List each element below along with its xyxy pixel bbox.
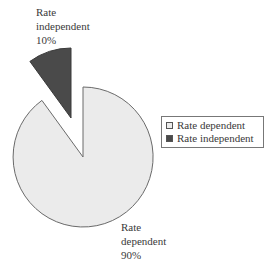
label-value: 10% xyxy=(36,33,90,47)
legend-swatch-icon xyxy=(166,135,173,142)
slice-rate-dependent xyxy=(13,87,153,227)
legend-label: Rate dependent xyxy=(177,119,245,132)
label-line: Rate xyxy=(36,5,90,19)
label-rate-dependent: Rate dependent 90% xyxy=(121,220,166,262)
label-line: Rate xyxy=(121,220,166,234)
legend-item-rate-independent: Rate independent xyxy=(166,132,259,145)
legend-item-rate-dependent: Rate dependent xyxy=(166,119,259,132)
label-line: independent xyxy=(36,19,90,33)
legend: Rate dependent Rate independent xyxy=(161,116,264,148)
label-value: 90% xyxy=(121,248,166,262)
legend-swatch-icon xyxy=(166,122,173,129)
label-rate-independent: Rate independent 10% xyxy=(36,5,90,47)
legend-label: Rate independent xyxy=(177,132,254,145)
label-line: dependent xyxy=(121,234,166,248)
